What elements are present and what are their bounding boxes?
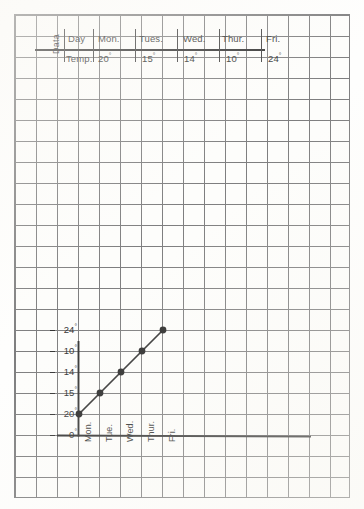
y-tick-label-20: 20° xyxy=(55,408,77,419)
table-cell-day-mon: Mon. xyxy=(98,33,120,44)
y-tick-value: 10 xyxy=(64,345,75,356)
temp-value: 15 xyxy=(142,53,153,64)
table-cell-day-tues: Tues. xyxy=(139,33,163,44)
degree-sign: ° xyxy=(74,323,77,330)
y-tick-value: 20 xyxy=(64,408,75,419)
graph-paper-sheet: Data Day Temp. Mon. Tues. Wed. Thur. Fri… xyxy=(0,0,364,509)
degree-sign: ° xyxy=(195,52,198,59)
x-tick-label-tue: Tue. xyxy=(104,424,114,442)
x-tick-label-thur: Thur. xyxy=(146,421,156,442)
y-tick-label-0: 0° xyxy=(60,429,77,440)
degree-sign: ° xyxy=(74,428,77,435)
y-tick-label-10: 10° xyxy=(55,345,77,356)
table-cell-day-fri: Fri. xyxy=(266,33,280,44)
degree-sign: ° xyxy=(279,52,282,59)
table-column-divider xyxy=(177,29,178,62)
degree-sign: ° xyxy=(74,407,77,414)
y-tick-label-24: 24° xyxy=(55,324,77,335)
degree-sign: ° xyxy=(74,365,77,372)
table-cell-temp-mon: 20° xyxy=(98,53,111,64)
temp-value: 10 xyxy=(226,53,237,64)
temp-value: 20 xyxy=(98,53,109,64)
graph-paper-grid xyxy=(14,14,350,497)
table-cell-temp-tues: 15° xyxy=(142,53,155,64)
grid-bottom-edge xyxy=(14,497,350,498)
table-column-divider xyxy=(219,29,220,62)
table-cell-day-wed: Wed. xyxy=(183,33,205,44)
degree-sign: ° xyxy=(74,344,77,351)
temp-value: 14 xyxy=(184,53,195,64)
table-cell-temp-thur: 10° xyxy=(226,53,239,64)
y-tick-dash xyxy=(50,435,55,436)
x-tick-label-fri: Fri. xyxy=(167,429,177,442)
temp-value: 24 xyxy=(268,53,279,64)
degree-sign: ° xyxy=(153,52,156,59)
x-tick-label-mon: Mon. xyxy=(83,422,93,442)
degree-sign: ° xyxy=(74,386,77,393)
table-column-divider xyxy=(261,29,262,62)
y-tick-label-15: 15° xyxy=(55,387,77,398)
y-tick-value: 24 xyxy=(64,324,75,335)
table-column-divider xyxy=(93,29,94,62)
table-row-header-day: Day xyxy=(68,33,85,44)
grid-right-edge xyxy=(349,14,350,498)
table-cell-temp-fri: 24° xyxy=(268,53,281,64)
x-tick-label-wed: Wed. xyxy=(125,421,135,442)
y-tick-value: 15 xyxy=(64,387,75,398)
table-cell-day-thur: Thur. xyxy=(222,33,244,44)
data-table: Data Day Temp. Mon. Tues. Wed. Thur. Fri… xyxy=(14,14,350,57)
y-tick-label-14: 14° xyxy=(55,366,77,377)
table-column-divider xyxy=(135,29,136,62)
table-divider-rule xyxy=(35,49,265,51)
degree-sign: ° xyxy=(109,52,112,59)
table-cell-temp-wed: 14° xyxy=(184,53,197,64)
y-tick-value: 14 xyxy=(64,366,75,377)
table-row-header-temp: Temp. xyxy=(66,53,92,64)
degree-sign: ° xyxy=(237,52,240,59)
